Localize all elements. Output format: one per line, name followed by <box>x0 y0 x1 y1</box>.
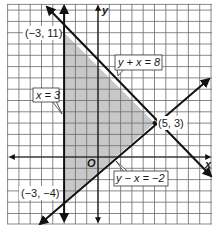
vertex-point-5-3 <box>153 121 157 125</box>
svg-text:y + x = 8: y + x = 8 <box>117 56 161 68</box>
origin-label: O <box>87 157 96 169</box>
svg-text:y − x = −2: y − x = −2 <box>115 172 165 184</box>
vertex-label-bottom: (−3, −4) <box>21 187 60 199</box>
graph-canvas: y x O (−3, 11) (5, 3) (−3, −4) x = 3 y +… <box>0 0 217 227</box>
callout-y-plus-x-eq-8: y + x = 8 <box>115 55 162 76</box>
y-axis-label: y <box>101 4 109 16</box>
svg-text:x = 3: x = 3 <box>35 89 61 101</box>
inequality-graph: y x O (−3, 11) (5, 3) (−3, −4) x = 3 y +… <box>0 0 217 227</box>
callout-x-eq-3: x = 3 <box>33 88 62 114</box>
callout-y-minus-x-eq-neg2: y − x = −2 <box>114 161 168 186</box>
vertex-label-right: (5, 3) <box>158 117 184 129</box>
x-axis-label: x <box>204 158 212 170</box>
vertex-label-top: (−3, 11) <box>25 27 62 39</box>
